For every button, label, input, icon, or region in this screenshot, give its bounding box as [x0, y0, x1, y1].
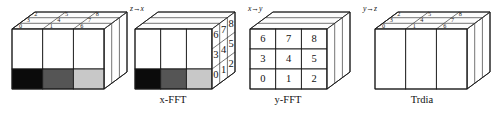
- stage-2-face-number-2: 2: [229, 58, 234, 69]
- stage-4-top-number-4: 4: [420, 16, 423, 23]
- stage-2-face-number-3: 3: [213, 49, 218, 60]
- stage-2-face-number-8: 8: [229, 18, 234, 29]
- figure-3d-fft-pipeline: 0 1 6 3 4 7 2 5 8 z→x 6 7 8 3: [0, 0, 492, 115]
- stage-2-cuboid: 6 7 8 3 4 5 0 1 2: [135, 12, 235, 89]
- stage-2-face-number-5: 5: [229, 38, 234, 49]
- stage-4-top-number-8: 8: [459, 10, 462, 17]
- stage-4-top-number-0: 0: [382, 22, 385, 29]
- transition-label-x-to-y: x→y: [247, 4, 263, 13]
- caption-x-fft: x-FFT: [160, 94, 187, 105]
- stage-1-top-number-0: 0: [19, 22, 22, 29]
- stage-3-face-number-5: 5: [312, 53, 317, 64]
- stage-4-top-number-1: 1: [413, 22, 416, 29]
- stage-2-front-col-1-shaded: [135, 69, 161, 89]
- stage-3-face-number-7: 7: [286, 33, 291, 44]
- stage-4-top-number-3: 3: [390, 16, 393, 23]
- stage-3-face-number-6: 6: [260, 33, 265, 44]
- stage-1-front-col-1-shaded: [12, 69, 43, 89]
- stage-2-front-col-3-top: [186, 29, 212, 69]
- stage-4-top-number-2: 2: [397, 10, 400, 17]
- stage-1-front-col-3-shaded: [73, 69, 104, 89]
- stage-1-front-col-2-top: [43, 29, 74, 69]
- stage-2-face-number-4: 4: [221, 44, 227, 55]
- stage-4-top-number-7: 7: [451, 16, 454, 23]
- caption-trdia: Trdia: [411, 94, 434, 105]
- stage-2-face-number-6: 6: [213, 29, 218, 40]
- stage-2-face-number-7: 7: [221, 24, 226, 35]
- stage-1-top-number-6: 6: [80, 22, 83, 29]
- stage-1-front-col-3-top: [73, 29, 104, 69]
- stage-1-top-number-7: 7: [88, 16, 91, 23]
- stage-2-front-col-2-top: [161, 29, 187, 69]
- stage-3-face-number-3: 3: [260, 53, 265, 64]
- stage-4-front-col-1: [375, 29, 406, 89]
- stage-2-face-number-0: 0: [213, 69, 218, 80]
- stage-2-front-col-2-shaded: [161, 69, 187, 89]
- stage-2-front-col-1-top: [135, 29, 161, 69]
- stage-1-front-col-1-top: [12, 29, 43, 69]
- stage-1-top-number-4: 4: [57, 16, 60, 23]
- stage-3-face-number-1: 1: [286, 73, 291, 84]
- stage-1-top-number-2: 2: [34, 10, 37, 17]
- stage-1-front-col-2-shaded: [43, 69, 74, 89]
- stage-1-top-number-1: 1: [50, 22, 53, 29]
- stage-4-top-number-6: 6: [443, 22, 446, 29]
- stage-2-front-col-3-shaded: [186, 69, 212, 89]
- stage-4-front-col-3: [436, 29, 467, 89]
- caption-y-fft: y-FFT: [275, 94, 302, 105]
- stage-3-face-number-0: 0: [260, 73, 265, 84]
- stage-1-top-number-3: 3: [27, 16, 30, 23]
- stage-4-front-col-2: [406, 29, 437, 89]
- stage-2-face-number-1: 1: [221, 64, 226, 75]
- stage-4-cuboid: 0 1 6 3 4 7 2 5 8: [375, 10, 490, 89]
- stage-3-face-number-2: 2: [312, 73, 317, 84]
- transition-label-y-to-z: y→z: [362, 4, 377, 13]
- stage-1-top-number-8: 8: [96, 10, 99, 17]
- stage-4-top-number-5: 5: [428, 10, 431, 17]
- stage-1-top-number-5: 5: [65, 10, 68, 17]
- stage-1-cuboid: 0 1 6 3 4 7 2 5 8: [12, 10, 127, 89]
- transition-label-z-to-x: z→x: [129, 4, 145, 13]
- stage-3-face-number-8: 8: [312, 33, 317, 44]
- stage-3-cuboid: 6 7 8 3 4 5 0 1 2: [250, 12, 350, 89]
- stage-3-face-number-4: 4: [286, 53, 292, 64]
